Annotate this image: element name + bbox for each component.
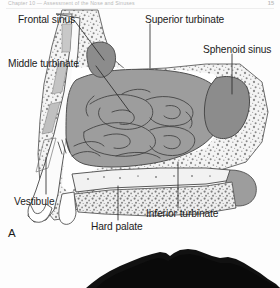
label-inferior-turbinate: Inferior turbinate [146, 208, 218, 219]
label-middle-turbinate: Middle turbinate [8, 58, 79, 69]
label-vestibule: Vestibule [14, 196, 54, 207]
frontal-sinus-cavity [87, 42, 116, 77]
label-superior-turbinate: Superior turbinate [145, 14, 224, 25]
label-frontal-sinus: Frontal sinus [18, 14, 75, 25]
panel-label-a: A [8, 227, 16, 239]
page-number: 15 [268, 0, 274, 6]
figure-page: Chapter 10 — Assessment of the Nose and … [0, 0, 280, 288]
running-header: Chapter 10 — Assessment of the Nose and … [8, 0, 228, 6]
label-hard-palate: Hard palate [91, 221, 143, 232]
incisor-tooth [59, 192, 76, 224]
label-sphenoid-sinus: Sphenoid sinus [203, 44, 271, 55]
photograph-panel-b [0, 243, 280, 288]
